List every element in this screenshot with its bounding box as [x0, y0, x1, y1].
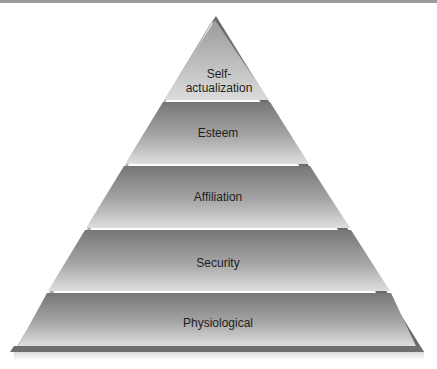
- pyramid-base: [10, 346, 424, 352]
- label-physiological: Physiological: [183, 316, 253, 330]
- label-self-line1: Self-: [186, 67, 253, 81]
- label-self-line2: actualization: [186, 81, 253, 95]
- label-esteem: Esteem: [198, 126, 239, 140]
- label-affiliation: Affiliation: [194, 190, 242, 204]
- label-security: Security: [196, 256, 239, 270]
- pyramid-graphic: [0, 0, 437, 369]
- base-shadow: [14, 352, 424, 360]
- label-self-actualization: Self- actualization: [186, 67, 253, 95]
